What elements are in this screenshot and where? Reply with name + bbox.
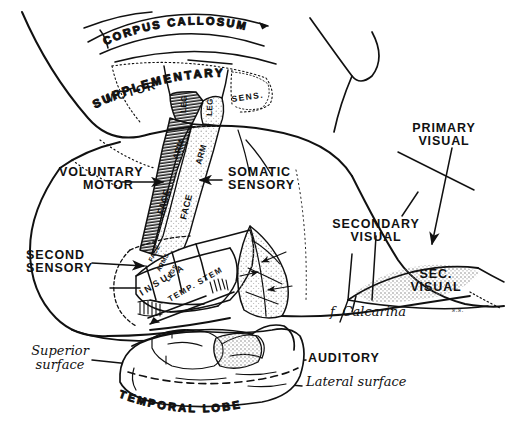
svg-text:LEG: LEG [179, 95, 189, 113]
label-primary-visual: PRIMARYVISUAL [394, 122, 494, 149]
label-sec-visual: SEC.VISUAL [404, 268, 468, 295]
label-superior-surface: Superiorsurface [18, 344, 102, 372]
label-auditory: AUDITORY [308, 352, 380, 365]
stippled-fan-region [238, 226, 292, 318]
label-secondary-visual: SECONDARYVISUAL [318, 218, 434, 245]
parieto-occipital-sulcus [310, 18, 379, 132]
label-somatic-sensory: SOMATICSENSORY [228, 166, 295, 193]
auditory-area-stipple [214, 333, 262, 368]
svg-text:LEG: LEG [205, 98, 215, 116]
label-lateral-surface: Lateral surface [306, 375, 406, 389]
label-second-sensory: SECONDSENSORY [26, 249, 93, 276]
temporal-lobe-drawing [120, 325, 304, 407]
artist-signature: s.s. [452, 306, 464, 313]
label-corpus-callosum: CORPUS CALLOSUM [101, 14, 249, 47]
label-voluntary-motor: VOLUNTARYMOTOR [59, 166, 144, 193]
figure-canvas: CORPUS CALLOSUM SUPPLEMENTARY TEMPORAL L… [0, 0, 505, 440]
label-f-calcarina: f. Calcarina [330, 305, 406, 319]
svg-text:CORPUS CALLOSUM: CORPUS CALLOSUM [101, 14, 249, 47]
medial-boundary-dotted [296, 170, 306, 300]
label-supplementary-sens: SENS. [231, 90, 265, 104]
